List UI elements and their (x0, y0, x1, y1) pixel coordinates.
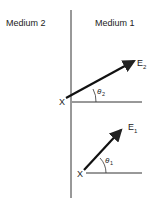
e2-subscript: 2 (143, 64, 147, 70)
vector-e1 (84, 130, 121, 170)
theta-1-subscript: 1 (110, 160, 113, 166)
origin-label-top: X (59, 97, 65, 107)
refraction-diagram: Medium 2 Medium 1 X X E 2 E 1 θ 2 θ 1 (0, 0, 153, 202)
medium-1-label: Medium 1 (95, 18, 135, 28)
theta-2-subscript: 2 (102, 91, 105, 97)
origin-label-bottom: X (77, 169, 83, 179)
e1-subscript: 1 (134, 128, 138, 134)
medium-2-label: Medium 2 (6, 18, 46, 28)
angle-arc-top (93, 89, 96, 102)
